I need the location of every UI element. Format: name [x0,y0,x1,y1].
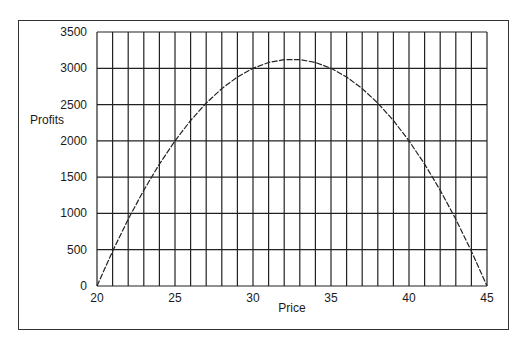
y-tick-label: 0 [80,279,87,293]
x-tick-label: 20 [90,291,104,305]
x-axis-label: Price [278,301,306,315]
x-tick-label: 40 [402,291,416,305]
y-tick-label: 3000 [60,61,87,75]
y-tick-label: 2500 [60,98,87,112]
y-tick-label: 1500 [60,170,87,184]
y-axis-label: Profits [30,113,64,127]
x-tick-label: 45 [480,291,494,305]
grid-lines [97,32,487,286]
profit-line-chart: 0500100015002000250030003500 20253035404… [0,0,526,348]
y-tick-label: 3500 [60,25,87,39]
y-axis-ticks: 0500100015002000250030003500 [60,25,87,293]
y-tick-label: 2000 [60,134,87,148]
y-tick-label: 500 [67,243,87,257]
x-tick-label: 25 [168,291,182,305]
profit-curve [97,60,487,286]
x-tick-label: 35 [324,291,338,305]
x-tick-label: 30 [246,291,260,305]
y-tick-label: 1000 [60,206,87,220]
